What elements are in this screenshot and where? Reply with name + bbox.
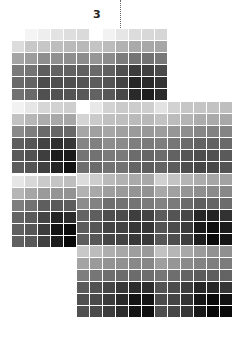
- grid-cell: [38, 176, 50, 187]
- grid-cell: [129, 270, 141, 281]
- grid-cell: [64, 150, 76, 161]
- grid-cell: [181, 222, 193, 233]
- grid-cell: [103, 258, 115, 269]
- grid-cell: [90, 294, 102, 305]
- grid-cell: [25, 236, 37, 247]
- grid-cell: [194, 222, 206, 233]
- grid-cell: [51, 212, 63, 223]
- grid-cell: [142, 65, 154, 76]
- grid-cell: [103, 174, 115, 185]
- grid-cell: [77, 258, 89, 269]
- grid-cell: [90, 234, 102, 245]
- grid-cell: [90, 198, 102, 209]
- grid-cell: [220, 114, 232, 125]
- grid-cell: [194, 270, 206, 281]
- grid-cell: [207, 210, 219, 221]
- grid-cell: [194, 174, 206, 185]
- grid-cell: [142, 126, 154, 137]
- grid-cell: [38, 150, 50, 161]
- grid-cell: [51, 200, 63, 211]
- grid-cell: [51, 53, 63, 64]
- grid-cell: [12, 89, 24, 100]
- grid-cell: [116, 53, 128, 64]
- grid-cell: [103, 270, 115, 281]
- grid-cell: [77, 198, 89, 209]
- grid-cell: [142, 258, 154, 269]
- grid-cell: [129, 222, 141, 233]
- grid-cell: [220, 126, 232, 137]
- grid-cell: [25, 77, 37, 88]
- grid-cell: [90, 53, 102, 64]
- grid-cell: [64, 89, 76, 100]
- grid-cell: [194, 162, 206, 173]
- grid-cell: [168, 198, 180, 209]
- grid-cell: [220, 306, 232, 317]
- grid-cell: [207, 270, 219, 281]
- grid-cell: [194, 282, 206, 293]
- grid-cell: [116, 126, 128, 137]
- grid-cell: [129, 234, 141, 245]
- grid-cell: [194, 150, 206, 161]
- grid-cell: [90, 89, 102, 100]
- grid-cell: [103, 234, 115, 245]
- grid-cell: [90, 246, 102, 257]
- grid-cell: [64, 176, 76, 187]
- grid-cell: [90, 186, 102, 197]
- grid-cell: [181, 270, 193, 281]
- grid-cell: [38, 236, 50, 247]
- grid-cell: [220, 162, 232, 173]
- grid-cell: [103, 114, 115, 125]
- grid-cell: [207, 198, 219, 209]
- grid-cell: [12, 53, 24, 64]
- grid-cell: [142, 89, 154, 100]
- grid-cell: [51, 150, 63, 161]
- grid-cell: [77, 246, 89, 257]
- grid-cell: [129, 89, 141, 100]
- grid-cell: [207, 234, 219, 245]
- grid-cell: [77, 234, 89, 245]
- grid-cell: [90, 77, 102, 88]
- grid-cell: [38, 29, 50, 40]
- grid-cell: [155, 29, 167, 40]
- grid-cell: [168, 138, 180, 149]
- grid-cell: [194, 246, 206, 257]
- grid-cell: [168, 270, 180, 281]
- grid-cell: [129, 65, 141, 76]
- grid-cell: [207, 138, 219, 149]
- grid-cell: [51, 65, 63, 76]
- grid-cell: [142, 77, 154, 88]
- grid-cell: [168, 246, 180, 257]
- grid-cell: [64, 200, 76, 211]
- grid-cell: [12, 114, 24, 125]
- grid-cell: [90, 138, 102, 149]
- grid-cell: [25, 126, 37, 137]
- grid-cell: [12, 224, 24, 235]
- grid-cell: [116, 198, 128, 209]
- grid-cell: [194, 186, 206, 197]
- grid-cell: [155, 258, 167, 269]
- grid-cell: [181, 234, 193, 245]
- grid-cell: [25, 114, 37, 125]
- grid-cell: [194, 258, 206, 269]
- grid-cell: [220, 294, 232, 305]
- grid-cell: [90, 126, 102, 137]
- grid-cell: [116, 89, 128, 100]
- grid-cell: [181, 114, 193, 125]
- grid-cell: [194, 294, 206, 305]
- grid-cell: [103, 138, 115, 149]
- lower-left-block: [12, 176, 76, 247]
- grid-cell: [116, 258, 128, 269]
- top-block: [12, 29, 167, 100]
- grid-cell: [38, 162, 50, 173]
- grid-cell: [220, 102, 232, 113]
- grid-cell: [155, 150, 167, 161]
- grid-cell: [207, 306, 219, 317]
- grid-cell: [51, 102, 63, 113]
- grid-cell: [64, 224, 76, 235]
- grid-cell: [77, 306, 89, 317]
- grid-cell: [38, 126, 50, 137]
- grid-cell: [155, 294, 167, 305]
- grid-cell: [181, 246, 193, 257]
- grid-cell: [155, 306, 167, 317]
- grid-cell: [64, 65, 76, 76]
